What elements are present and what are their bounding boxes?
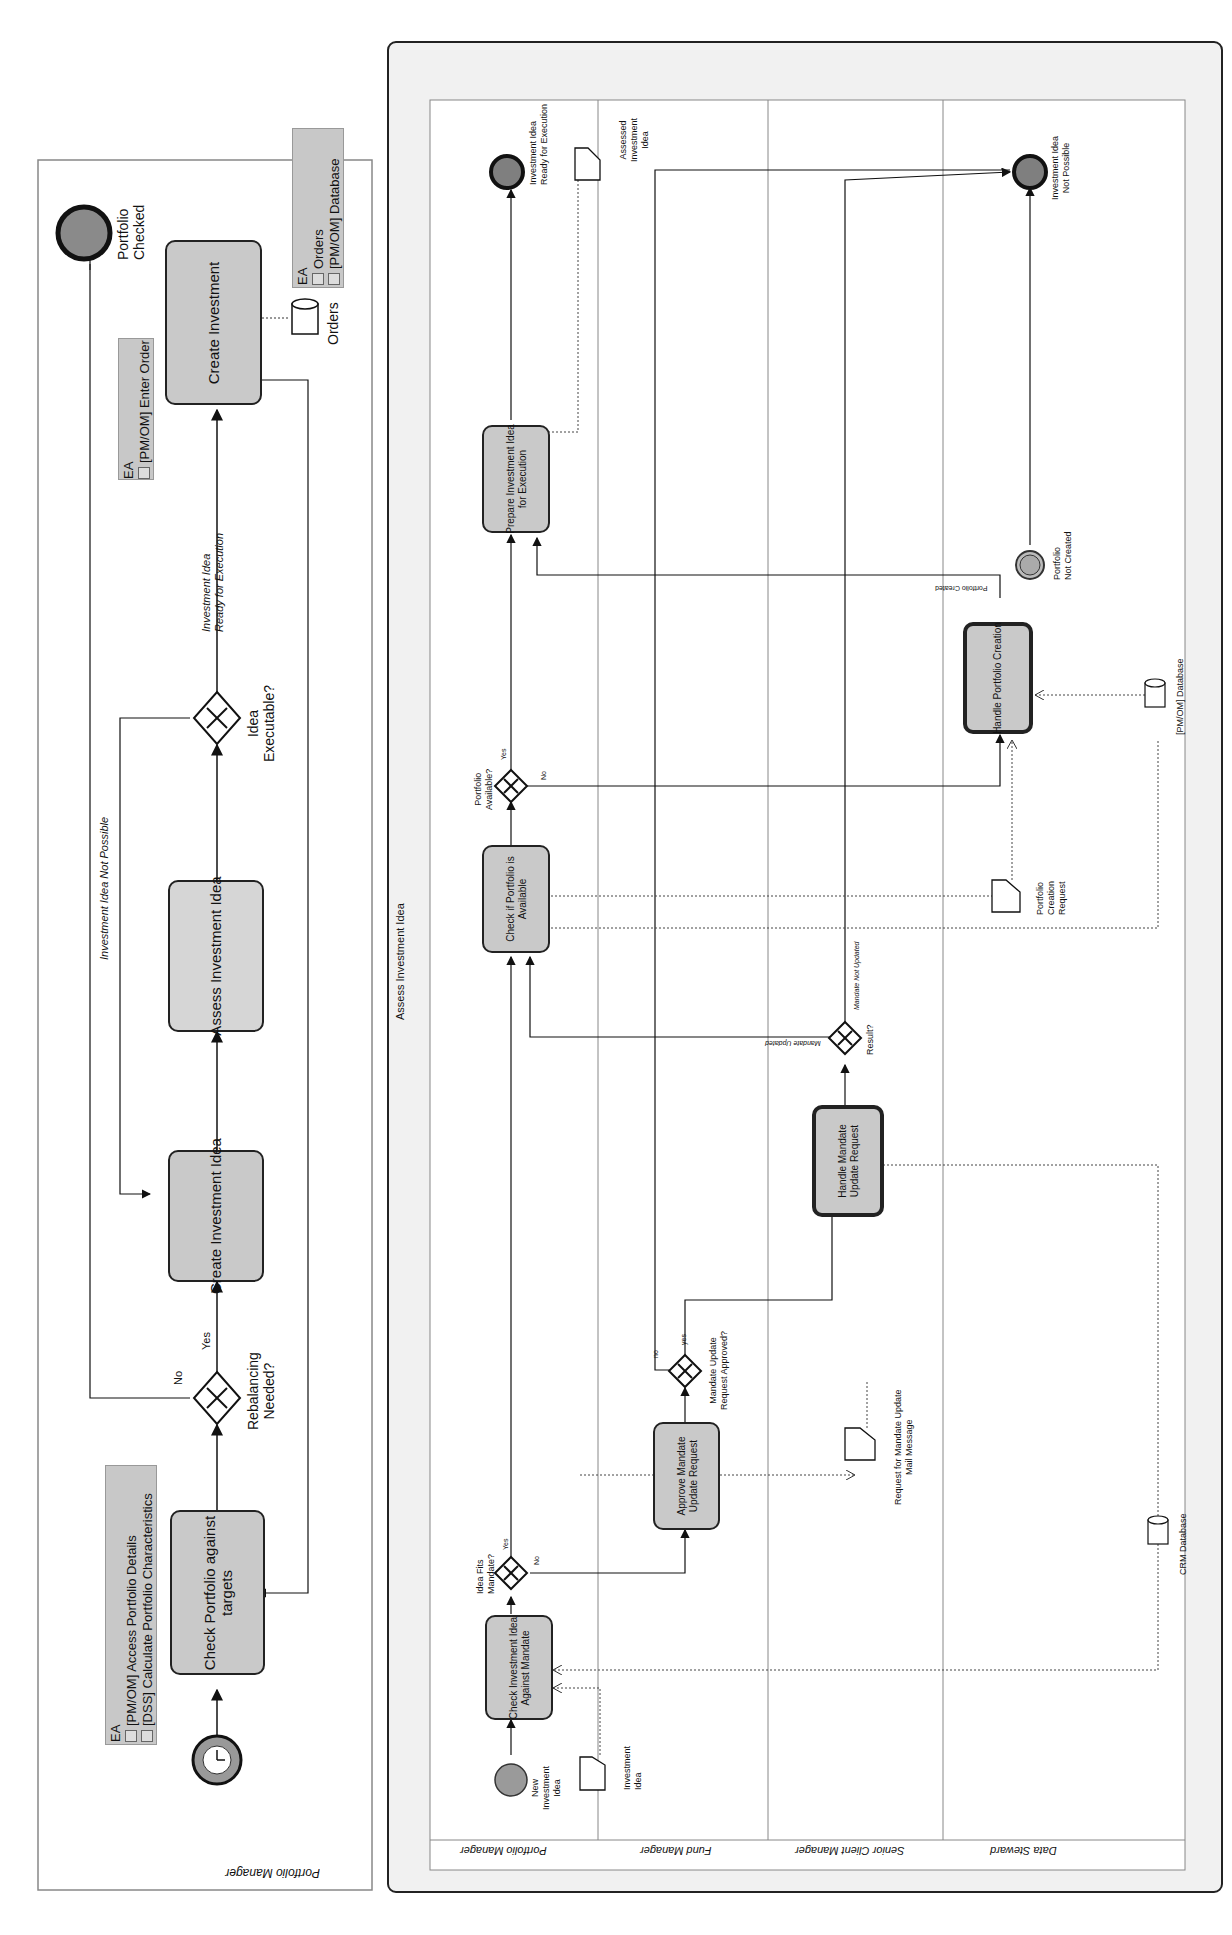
lane-senior-client-manager: Senior Client Manager [795, 1845, 904, 1857]
data-object-investment-idea-label: InvestmentIdea [622, 1746, 644, 1790]
system-icon [125, 1730, 137, 1742]
flow-yes-label: Yes [500, 749, 507, 760]
data-object-mail-label: Request for Mandate UpdateMail Message [893, 1389, 915, 1505]
ea-title: EA [108, 1493, 124, 1742]
data-store-pmom-label: [PM/OM] Database [1175, 658, 1185, 735]
task-create-investment[interactable]: Create Investment [165, 240, 262, 405]
flow-no-label: No [172, 1371, 184, 1385]
gateway-result-label: Result? [865, 1024, 875, 1055]
gateway-approved-label: Mandate UpdateRequest Approved? [708, 1331, 730, 1410]
task-handle-portfolio-creation[interactable]: Handle Portfolio Creation [963, 622, 1033, 734]
system-icon [138, 467, 150, 479]
left-pool-label: Portfolio Manager [225, 1866, 320, 1880]
start-new-idea-label: NewInvestmentIdea [530, 1766, 563, 1810]
gateway-executable-label: IdeaExecutable? [245, 685, 277, 762]
ea-box-enter-order: EA [PM/OM] Enter Order [118, 338, 154, 480]
task-check-portfolio[interactable]: Check Portfolio againsttargets [170, 1510, 265, 1675]
gateway-rebalancing-label: RebalancingNeeded? [245, 1352, 277, 1430]
lane-data-steward: Data Steward [990, 1845, 1057, 1857]
flow-no-label: No [540, 771, 547, 780]
flow-portfolio-created-label: Portfolio Created [935, 585, 988, 592]
lane-portfolio-manager: Portfolio Manager [460, 1845, 547, 1857]
flow-no-label: No [533, 1556, 540, 1565]
task-check-portfolio-available[interactable]: Check if Portfolio isAvailable [482, 845, 550, 953]
document-icon [328, 273, 340, 285]
orders-data-store [292, 299, 318, 334]
ea-box-orders: EA Orders [PM/OM] Database [292, 128, 344, 288]
task-create-investment-idea[interactable]: Create Investment Idea [168, 1150, 264, 1282]
data-store-crm-label: CRM Database [1178, 1513, 1188, 1575]
right-pool-label: Assess Investment Idea [394, 903, 406, 1020]
flow-yes-label: Yes [200, 1332, 212, 1350]
flow-mandate-not-updated-label: Mandate Not Updated [853, 942, 860, 1011]
end-not-possible-label: Investment IdeaNot Possible [1050, 136, 1072, 200]
task-assess-investment-idea[interactable]: Assess Investment Idea [168, 880, 264, 1032]
ea-box-portfolio: EA [PM/OM] Access Portfolio Details [DSS… [105, 1465, 157, 1745]
gateway-fits-label: Idea FitsMandate? [475, 1554, 497, 1594]
flow-yes-label: Yes [502, 1539, 509, 1550]
task-prepare-execution[interactable]: Prepare Investment Ideafor Execution [482, 425, 550, 533]
data-object-creation-request-label: PortfolioCreationRequest [1035, 881, 1068, 915]
flow-no-label: no [652, 1350, 659, 1358]
gateway-available-label: PortfolioAvailable? [473, 769, 495, 810]
data-object-assessed-label: AssessedInvestmentIdea [618, 118, 651, 162]
flow-yes-label: yes [680, 1334, 687, 1345]
task-check-mandate[interactable]: Check Investment IdeaAgainst Mandate [485, 1615, 553, 1720]
task-approve-mandate[interactable]: Approve MandateUpdate Request [653, 1422, 720, 1530]
task-handle-mandate[interactable]: Handle MandateUpdate Request [812, 1105, 884, 1217]
lane-fund-manager: Fund Manager [640, 1845, 712, 1857]
system-icon [312, 273, 324, 285]
system-icon [141, 1730, 153, 1742]
flow-not-possible-label: Investment Idea Not Possible [98, 817, 110, 960]
boundary-not-created-label: PortfolioNot Created [1052, 531, 1074, 580]
flow-ready-label: Investment IdeaReady for Execution [200, 533, 226, 632]
end-ready-label: Investment IdeaReady for Execution [528, 104, 550, 185]
end-event-label: PortfolioChecked [115, 205, 147, 260]
data-store-orders-label: Orders [325, 302, 341, 345]
flow-mandate-updated-label: Mandate Updated [765, 1040, 821, 1047]
